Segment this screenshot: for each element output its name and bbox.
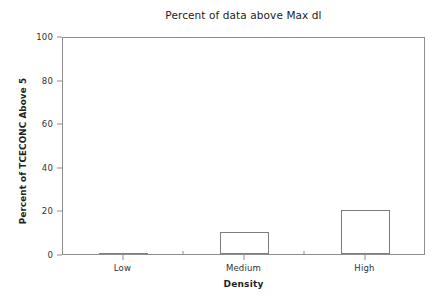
- bar-medium[interactable]: [220, 232, 268, 254]
- y-tick-label: 20: [42, 206, 53, 216]
- x-tick-mark: [364, 255, 365, 260]
- y-tick-label: 100: [36, 32, 53, 42]
- x-category-separator: [183, 251, 184, 255]
- bar-high[interactable]: [341, 210, 389, 254]
- y-tick-label: 80: [42, 76, 53, 86]
- x-tick-label-medium: Medium: [226, 263, 261, 273]
- x-tick-mark: [122, 255, 123, 260]
- y-tick-label: 60: [42, 119, 53, 129]
- bar-low[interactable]: [99, 253, 147, 254]
- chart-figure: Percent of data above Max dl 02040608010…: [0, 0, 441, 298]
- plot-area: [62, 37, 425, 255]
- x-category-separator: [304, 251, 305, 255]
- x-tick-label-high: High: [354, 263, 374, 273]
- y-axis-label: Percent of TCECONC Above 5: [18, 51, 28, 251]
- y-tick-label: 40: [42, 163, 53, 173]
- bars-layer: [63, 38, 424, 254]
- x-tick-label-low: Low: [114, 263, 131, 273]
- y-axis: 020406080100: [0, 0, 62, 298]
- x-axis: Density LowMediumHigh: [62, 255, 425, 298]
- chart-title: Percent of data above Max dl: [62, 9, 425, 21]
- y-tick-label: 0: [47, 250, 53, 260]
- x-axis-label: Density: [62, 279, 425, 289]
- x-tick-mark: [243, 255, 244, 260]
